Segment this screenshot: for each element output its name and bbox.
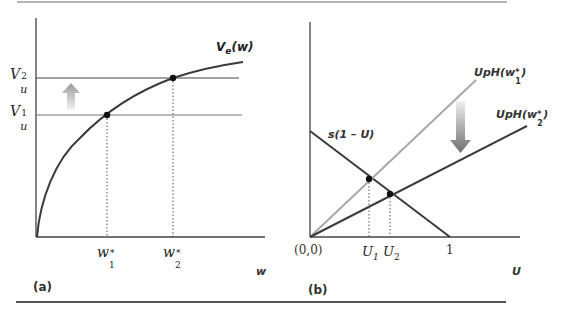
panel-a-x-axis-label: w <box>256 265 266 278</box>
one-tick-label: 1 <box>446 243 454 257</box>
vu1-sub: u <box>20 120 27 133</box>
w1-name: w <box>97 244 109 260</box>
uph-w1-text: UpH(w <box>474 66 515 79</box>
u2-label: U2 <box>383 244 400 262</box>
equilibrium-point-1 <box>104 112 110 118</box>
uph-w2-label: UpH(w*2) <box>496 108 548 121</box>
ve-curve-label: Ve(w) <box>216 40 253 56</box>
bottom-rule <box>16 301 506 303</box>
ve-name: V <box>216 40 225 54</box>
down-arrow-icon <box>450 101 471 153</box>
uph-w2-sub: 2 <box>537 119 543 128</box>
uph-w1-sub: 1 <box>515 77 521 86</box>
vu1-label: V1u <box>10 103 30 119</box>
u1-sub: 1 <box>373 252 379 262</box>
steady-state-point-2 <box>387 191 393 197</box>
separation-line <box>310 131 450 237</box>
vu2-label: V2u <box>10 66 30 82</box>
vu1-name: V <box>10 103 20 119</box>
steady-state-point-1 <box>366 176 372 182</box>
vu2-sup: 2 <box>21 71 27 81</box>
origin-label: (0,0) <box>294 243 322 257</box>
uph-w2-text: UpH(w <box>496 108 537 121</box>
ve-arg: (w) <box>231 40 253 54</box>
panel-b-label: (b) <box>308 283 328 297</box>
uph-w1-close: ) <box>521 66 526 79</box>
up-arrow-icon <box>62 83 80 110</box>
vu2-name: V <box>10 66 20 82</box>
w2-sub: 2 <box>175 260 181 270</box>
u2-sub: 2 <box>394 252 400 262</box>
uph-w1-line <box>310 80 476 237</box>
w2-star-label: w*2 <box>163 244 183 260</box>
uph-w2-sup: * <box>537 110 541 119</box>
uph-w1-sup: * <box>515 68 519 77</box>
uph-w2-close: ) <box>543 108 548 121</box>
u2-name: U <box>383 244 394 259</box>
vu2-sub: u <box>20 83 27 96</box>
equilibrium-point-2 <box>170 75 176 81</box>
panel-a-label: (a) <box>33 280 52 294</box>
u1-name: U <box>362 244 373 259</box>
panel-b-x-axis-label: U <box>512 265 521 278</box>
figure-canvas <box>0 0 563 313</box>
w2-name: w <box>163 244 175 260</box>
uph-w2-line <box>310 126 527 237</box>
w1-sub: 1 <box>109 260 115 270</box>
w2-sup: * <box>176 248 181 258</box>
w1-star-label: w*1 <box>97 244 117 260</box>
w1-sup: * <box>110 248 115 258</box>
uph-w1-label: UpH(w*1) <box>474 66 526 79</box>
u1-label: U1 <box>362 244 379 262</box>
separation-line-label: s(1 – U) <box>328 128 374 141</box>
vu1-sup: 1 <box>21 108 27 118</box>
